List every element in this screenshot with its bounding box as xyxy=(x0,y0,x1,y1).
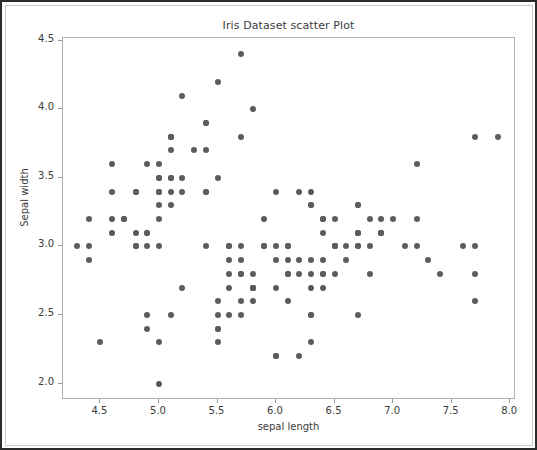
scatter-point xyxy=(285,257,291,263)
scatter-point xyxy=(308,339,314,345)
x-tick-mark xyxy=(392,399,393,403)
scatter-point xyxy=(308,257,314,263)
scatter-point xyxy=(215,79,221,85)
x-tick-label: 4.5 xyxy=(79,405,119,416)
scatter-point xyxy=(109,216,115,222)
scatter-point xyxy=(273,353,279,359)
scatter-point xyxy=(144,243,150,249)
x-tick-label: 7.0 xyxy=(372,405,412,416)
scatter-point xyxy=(378,230,384,236)
scatter-point xyxy=(144,230,150,236)
scatter-point xyxy=(308,202,314,208)
scatter-point xyxy=(215,339,221,345)
y-tick-mark xyxy=(58,314,62,315)
scatter-point xyxy=(367,216,373,222)
scatter-point xyxy=(308,189,314,195)
scatter-point xyxy=(144,161,150,167)
scatter-point xyxy=(226,271,232,277)
x-tick-label: 5.5 xyxy=(197,405,237,416)
scatter-point xyxy=(261,216,267,222)
scatter-point xyxy=(226,285,232,291)
scatter-point xyxy=(238,271,244,277)
scatter-point xyxy=(226,243,232,249)
scatter-point xyxy=(250,298,256,304)
scatter-point xyxy=(156,161,162,167)
scatter-point xyxy=(437,271,443,277)
scatter-point xyxy=(390,216,396,222)
scatter-point xyxy=(308,285,314,291)
scatter-point xyxy=(332,271,338,277)
scatter-point xyxy=(273,189,279,195)
scatter-point xyxy=(156,339,162,345)
scatter-point xyxy=(238,134,244,140)
scatter-point xyxy=(495,134,501,140)
x-tick-label: 6.0 xyxy=(255,405,295,416)
scatter-point xyxy=(273,243,279,249)
scatter-point xyxy=(296,257,302,263)
x-tick-mark xyxy=(275,399,276,403)
scatter-point xyxy=(109,161,115,167)
scatter-point xyxy=(320,257,326,263)
scatter-point xyxy=(168,312,174,318)
scatter-point xyxy=(355,230,361,236)
scatter-point xyxy=(320,271,326,277)
scatter-point xyxy=(308,312,314,318)
scatter-point xyxy=(343,257,349,263)
scatter-point xyxy=(179,175,185,181)
y-tick-label: 2.5 xyxy=(12,307,54,318)
scatter-point xyxy=(86,216,92,222)
scatter-point xyxy=(168,134,174,140)
scatter-point xyxy=(168,147,174,153)
scatter-point xyxy=(414,216,420,222)
scatter-point xyxy=(343,243,349,249)
scatter-point xyxy=(179,285,185,291)
scatter-point xyxy=(285,271,291,277)
scatter-point xyxy=(144,312,150,318)
scatter-point xyxy=(133,189,139,195)
scatter-point xyxy=(472,271,478,277)
y-tick-mark xyxy=(58,177,62,178)
scatter-point xyxy=(109,189,115,195)
y-tick-mark xyxy=(58,40,62,41)
scatter-point xyxy=(168,175,174,181)
x-tick-mark xyxy=(334,399,335,403)
scatter-point xyxy=(296,271,302,277)
scatter-point xyxy=(133,243,139,249)
scatter-point xyxy=(402,243,408,249)
scatter-point xyxy=(285,298,291,304)
scatter-point xyxy=(203,120,209,126)
x-tick-label: 8.0 xyxy=(489,405,529,416)
scatter-point xyxy=(203,243,209,249)
scatter-point xyxy=(203,189,209,195)
scatter-point xyxy=(332,216,338,222)
x-tick-mark xyxy=(217,399,218,403)
scatter-point xyxy=(367,243,373,249)
scatter-point xyxy=(273,285,279,291)
scatter-point xyxy=(144,326,150,332)
scatter-point xyxy=(472,243,478,249)
scatter-point xyxy=(215,175,221,181)
x-axis-label: sepal length xyxy=(62,421,515,432)
scatter-point xyxy=(261,243,267,249)
scatter-point xyxy=(460,243,466,249)
scatter-point xyxy=(168,202,174,208)
y-tick-mark xyxy=(58,383,62,384)
y-tick-label: 4.5 xyxy=(12,33,54,44)
x-tick-mark xyxy=(99,399,100,403)
y-tick-label: 2.0 xyxy=(12,376,54,387)
scatter-point xyxy=(285,243,291,249)
scatter-points-layer xyxy=(63,38,514,398)
x-tick-mark xyxy=(158,399,159,403)
scatter-point xyxy=(215,298,221,304)
scatter-point xyxy=(97,339,103,345)
scatter-point xyxy=(296,189,302,195)
scatter-point xyxy=(472,134,478,140)
scatter-point xyxy=(191,147,197,153)
scatter-point xyxy=(355,243,361,249)
scatter-point xyxy=(156,216,162,222)
chart-title: Iris Dataset scatter Plot xyxy=(62,19,515,32)
scatter-point xyxy=(109,230,115,236)
y-tick-mark xyxy=(58,245,62,246)
scatter-point xyxy=(238,312,244,318)
scatter-point xyxy=(74,243,80,249)
